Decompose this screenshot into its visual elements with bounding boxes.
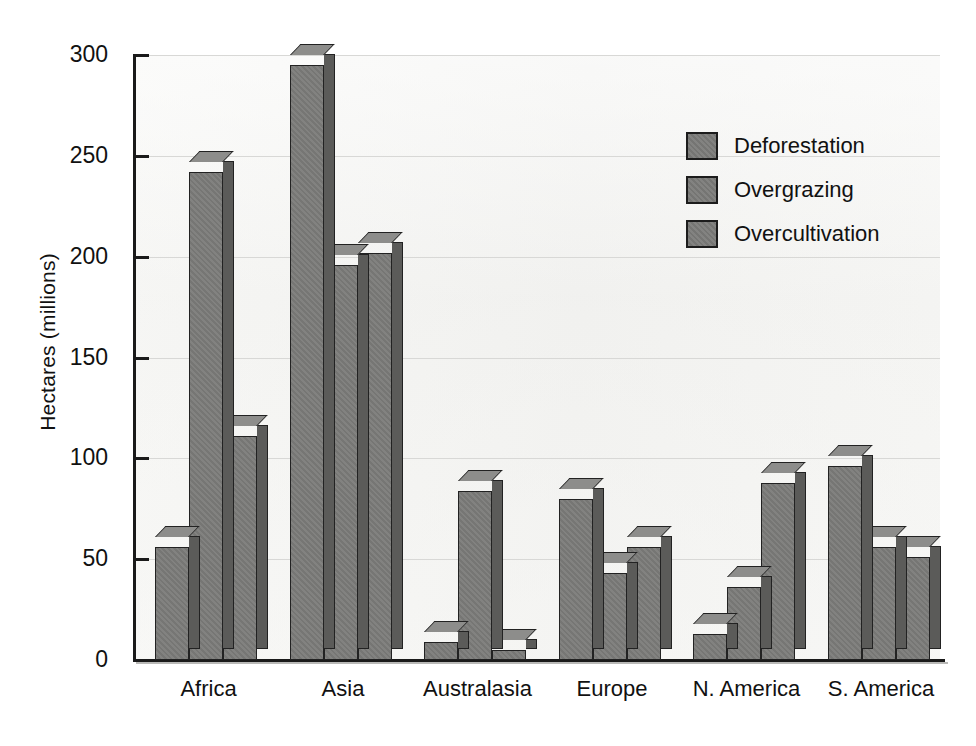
bar-side-3d <box>358 254 369 649</box>
y-axis-tick-mark <box>133 457 149 460</box>
bar-face <box>828 466 862 660</box>
x-axis-category-label: S. America <box>791 676 971 702</box>
bar-side-3d <box>930 546 941 649</box>
gridline <box>136 358 940 359</box>
y-axis-tick-label: 250 <box>34 144 108 167</box>
bar-side-3d <box>458 631 469 649</box>
bar-side-3d <box>526 639 537 649</box>
y-axis-tick-label: 150 <box>34 346 108 369</box>
legend-swatch-icon <box>686 220 718 248</box>
y-axis-tick-label: 0 <box>34 648 108 671</box>
y-axis-tick-mark <box>133 357 149 360</box>
y-axis-tick-mark <box>133 155 149 158</box>
bar-side-3d <box>257 425 268 649</box>
bar <box>290 54 335 660</box>
bar-side-3d <box>761 576 772 649</box>
y-axis-tick-label: 200 <box>34 245 108 268</box>
chart-legend: DeforestationOvergrazingOvercultivation <box>686 126 936 258</box>
legend-item: Deforestation <box>686 126 936 166</box>
legend-label: Overgrazing <box>734 177 854 203</box>
legend-label: Overcultivation <box>734 221 880 247</box>
bar-side-3d <box>593 488 604 649</box>
legend-swatch-icon <box>686 132 718 160</box>
legend-item: Overcultivation <box>686 214 936 254</box>
bar-side-3d <box>795 472 806 649</box>
bar-side-3d <box>862 455 873 649</box>
legend-swatch-icon <box>686 176 718 204</box>
bar-face <box>155 547 189 660</box>
bar-face <box>290 65 324 660</box>
bar-face <box>559 499 593 660</box>
y-axis-tick-mark <box>133 558 149 561</box>
y-axis-tick-labels: 050100150200250300 <box>30 0 108 746</box>
x-axis-shadow <box>136 662 948 664</box>
y-axis-tick-label: 50 <box>34 547 108 570</box>
bar-side-3d <box>392 242 403 649</box>
y-axis-tick-label: 100 <box>34 446 108 469</box>
gridline <box>136 55 940 56</box>
bar-side-3d <box>189 536 200 649</box>
bar-face <box>424 642 458 660</box>
y-axis-tick-mark <box>133 659 149 662</box>
legend-item: Overgrazing <box>686 170 936 210</box>
bar <box>424 631 469 660</box>
bar <box>693 623 738 660</box>
y-axis-tick-label: 300 <box>34 43 108 66</box>
bar-side-3d <box>324 54 335 649</box>
legend-label: Deforestation <box>734 133 865 159</box>
y-axis-tick-mark <box>133 54 149 57</box>
y-axis-tick-mark <box>133 256 149 259</box>
bar-side-3d <box>223 161 234 649</box>
bar-side-3d <box>727 623 738 649</box>
bar-face <box>693 634 727 660</box>
bar <box>155 536 200 660</box>
bar <box>559 488 604 660</box>
bar <box>828 455 873 660</box>
bar-chart: Hectares (millions) 050100150200250300 A… <box>0 0 976 746</box>
bar-side-3d <box>896 536 907 649</box>
bar-side-3d <box>627 562 638 649</box>
bar-side-3d <box>661 536 672 649</box>
bar-side-3d <box>492 480 503 649</box>
